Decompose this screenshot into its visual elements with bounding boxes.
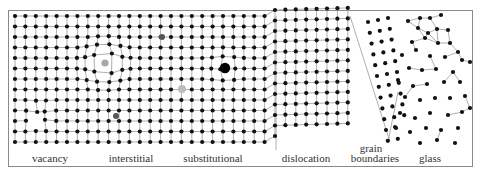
label-vacancy: vacancy [32,153,68,164]
interstitial-atom [101,59,108,66]
small-interstitial-atom [113,113,119,119]
label-substitutional: substitutional [183,153,242,164]
label-dislocation: dislocation [282,153,330,164]
substitutional-light-atom [178,85,186,93]
label-glass: glass [419,153,441,164]
label-grain-boundaries-line2: boundaries [351,153,399,164]
substitutional-small-atom [159,34,165,40]
lattice-diagram [0,0,480,173]
label-interstitial: interstitial [109,153,154,164]
substitutional-large-atom [220,63,230,73]
